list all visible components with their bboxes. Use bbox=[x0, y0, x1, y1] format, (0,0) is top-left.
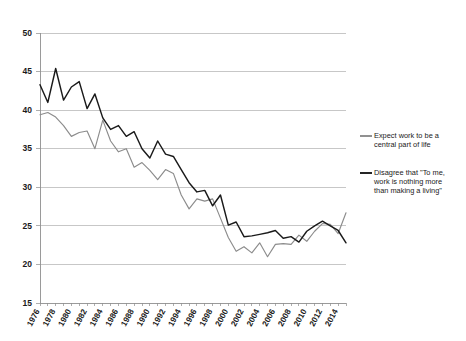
legend-label-1-line-2: than making a living" bbox=[374, 186, 442, 195]
y-tick-label: 45 bbox=[23, 66, 33, 76]
chart-figure: 1520253035404550 19761978198019821984198… bbox=[0, 0, 466, 341]
y-tick-label: 25 bbox=[23, 221, 33, 231]
line-chart: 1520253035404550 19761978198019821984198… bbox=[0, 0, 466, 341]
legend-label-0-line-1: central part of life bbox=[374, 140, 431, 149]
y-tick-label: 20 bbox=[23, 259, 33, 269]
y-tick-label: 15 bbox=[23, 298, 33, 308]
y-tick-label: 35 bbox=[23, 143, 33, 153]
legend-label-1-line-0: Disagree that "To me, bbox=[374, 168, 445, 177]
y-tick-label: 50 bbox=[23, 28, 33, 38]
legend-label-0-line-0: Expect work to be a bbox=[374, 131, 440, 140]
legend-label-1-line-1: work is nothing more bbox=[373, 177, 442, 186]
y-tick-label: 30 bbox=[23, 182, 33, 192]
y-tick-label: 40 bbox=[23, 105, 33, 115]
